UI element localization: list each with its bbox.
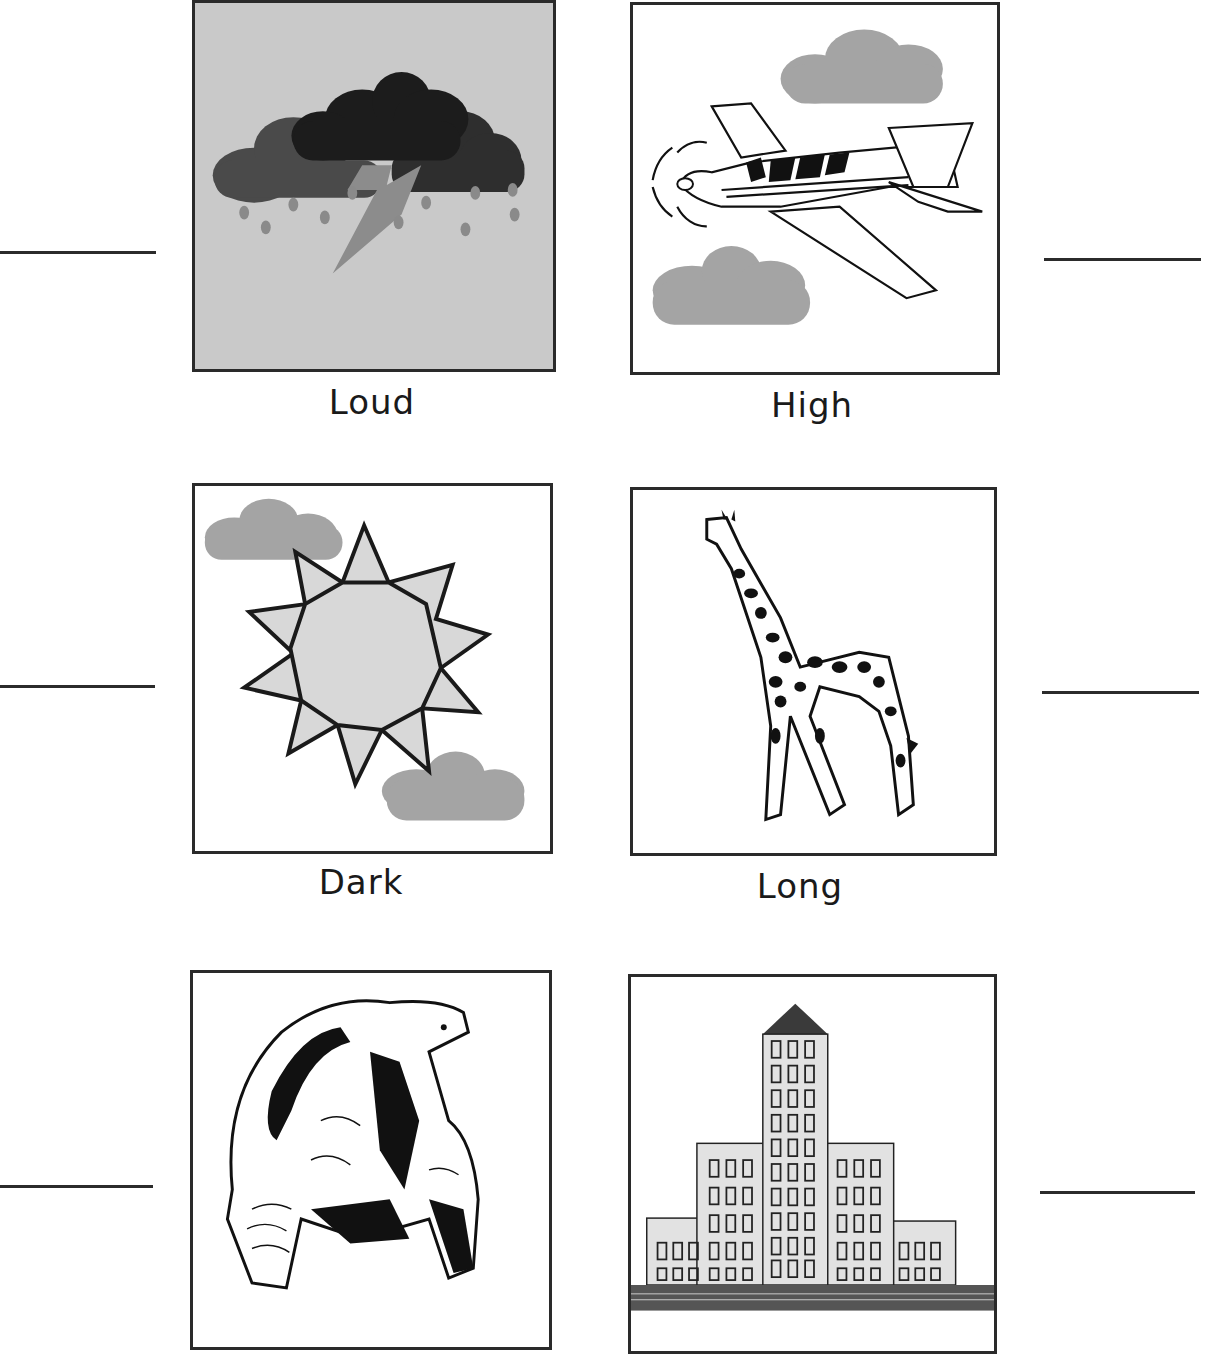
picture-card-sun [192,483,553,854]
airplane-icon [633,5,997,372]
card-label-airplane: High [712,385,912,425]
picture-card-storm [192,0,556,372]
answer-line-right-2[interactable] [1042,691,1199,694]
city-buildings-icon [631,977,994,1351]
card-label-storm: Loud [272,382,472,422]
picture-card-giraffe [630,487,997,856]
picture-card-tortoise [190,970,552,1350]
card-label-sun: Dark [261,862,461,902]
answer-line-left-2[interactable] [0,685,155,688]
tortoise-icon [193,973,549,1347]
picture-card-buildings [628,974,997,1354]
answer-line-left-3[interactable] [0,1185,153,1188]
sun-icon [195,486,550,851]
answer-line-left-1[interactable] [0,251,156,254]
giraffe-icon [633,490,994,853]
answer-line-right-1[interactable] [1044,258,1201,261]
answer-line-right-3[interactable] [1040,1191,1195,1194]
storm-cloud-icon [195,3,553,369]
picture-card-airplane [630,2,1000,375]
card-label-giraffe: Long [700,866,900,906]
